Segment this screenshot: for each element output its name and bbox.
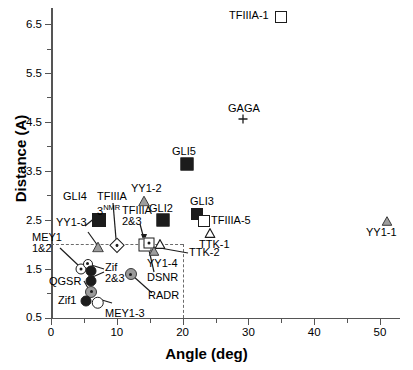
y-tick-label-3-5: 3.5	[8, 165, 42, 177]
y-tick-label-2-5: 2.5	[8, 214, 42, 226]
point-radr	[125, 268, 137, 280]
y-tick-1-5	[45, 269, 51, 270]
x-tick-label-10: 10	[105, 326, 129, 338]
point-gaga	[238, 114, 249, 125]
y-axis-line	[51, 8, 53, 319]
y-tick-label-4-5: 4.5	[8, 116, 42, 128]
zif-line2: 2&3	[105, 272, 125, 284]
x-tick-20	[183, 319, 184, 325]
x-tick-label-50: 50	[368, 326, 392, 338]
y-tick-label-5-5: 5.5	[8, 67, 42, 79]
point-label-gli2: GLI2	[149, 203, 173, 215]
point-zif1	[80, 295, 91, 306]
y-tick-minor-1-0	[47, 293, 51, 294]
x-tick-40	[314, 319, 315, 325]
point-label-tfiiia-1: TFIIIA-1	[229, 10, 269, 22]
x-tick-10	[117, 319, 118, 325]
point-label-yy1-3: YY1-3	[56, 217, 87, 229]
point-label-yy1-2: YY1-2	[131, 183, 162, 195]
point-label-tfiiia-5: TFIIIA-5	[211, 215, 251, 227]
point-yy1-3	[92, 242, 104, 253]
x-tick-30	[248, 319, 249, 325]
x-tick-minor-15	[150, 319, 151, 323]
point-tfiiia-1	[275, 11, 287, 23]
point-label-zif-2-3: Zif 2&3	[105, 262, 125, 284]
x-tick-label-30: 30	[236, 326, 260, 338]
point-ttk-1	[205, 228, 216, 238]
point-label-qgsr: QGSR	[49, 276, 81, 288]
y-tick-minor-5-0	[47, 97, 51, 98]
x-axis-title: Angle (deg)	[0, 345, 413, 362]
point-gli5	[180, 158, 193, 171]
mey1-line2: 1&2	[32, 242, 52, 254]
point-label-radr: RADR	[148, 290, 179, 302]
x-tick-label-20: 20	[171, 326, 195, 338]
y-tick-label-1-5: 1.5	[8, 263, 42, 275]
scatter-plot: Distance (A) Angle (deg) 6.5 5.5 4.5 3.5…	[0, 0, 413, 370]
point-tfiiia-5	[198, 215, 210, 227]
point-label-dsnr: DSNR	[147, 272, 178, 284]
point-gli2	[156, 214, 169, 227]
point-label-yy1-4: YY1-4	[147, 258, 178, 270]
point-zif-2-3-b	[86, 275, 97, 286]
x-tick-0	[51, 319, 52, 325]
y-tick-3-5	[45, 171, 51, 172]
y-tick-minor-6-0	[47, 49, 51, 50]
point-label-ttk-2: TTK-2	[189, 247, 220, 259]
point-label-zif1: Zif1	[58, 295, 76, 307]
point-label-gli3: GLI3	[190, 196, 214, 208]
y-tick-2-5	[45, 220, 51, 221]
x-tick-minor-25	[216, 319, 217, 323]
y-tick-5-5	[45, 73, 51, 74]
point-label-gaga: GAGA	[228, 103, 260, 115]
x-tick-minor-45	[347, 319, 348, 323]
x-tick-50	[380, 319, 381, 325]
point-yy1-1	[381, 216, 392, 226]
tfiiia-3-nmr-sup: NMR	[103, 203, 120, 212]
x-tick-label-40: 40	[302, 326, 326, 338]
point-label-mey1-3: MEY1-3	[105, 308, 145, 320]
y-tick-6-5	[45, 24, 51, 25]
point-label-mey1-1-2: MEY1 1&2	[32, 232, 62, 254]
reference-line-angle-20	[183, 244, 184, 318]
tfiiia-2-3-line2: 2&3	[122, 215, 142, 227]
x-tick-minor-35	[281, 319, 282, 323]
point-label-yy1-1: YY1-1	[366, 227, 397, 239]
point-label-tfiiia-2-3: TFIIIA 2&3	[122, 205, 152, 227]
label-leader-lines	[0, 0, 413, 370]
point-mey1-3	[91, 296, 104, 309]
point-tfiiia-3-nmr	[109, 238, 124, 253]
tfiiia-3-nmr-line1: TFIIIA	[97, 190, 127, 202]
x-tick-label-0: 0	[39, 326, 63, 338]
y-tick-minor-4-0	[47, 146, 51, 147]
point-yy1-4	[149, 246, 160, 256]
y-tick-label-0-5: 0.5	[8, 311, 42, 323]
y-tick-4-5	[45, 122, 51, 123]
y-tick-minor-3-0	[47, 195, 51, 196]
point-label-gli4: GLI4	[63, 191, 87, 203]
x-tick-minor-5	[84, 319, 85, 323]
y-tick-label-6-5: 6.5	[8, 18, 42, 30]
point-label-gli5: GLI5	[172, 146, 196, 158]
